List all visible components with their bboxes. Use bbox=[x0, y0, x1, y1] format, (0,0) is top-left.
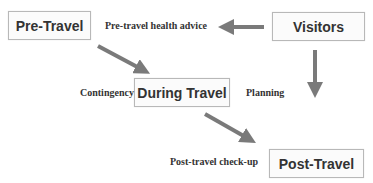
label-contingency: Contingency bbox=[80, 87, 134, 98]
node-post-travel: Post-Travel bbox=[269, 149, 364, 178]
node-during-travel: During Travel bbox=[134, 78, 230, 107]
node-visitors-label: Visitors bbox=[293, 19, 344, 35]
arrow-pre-to-during bbox=[98, 46, 143, 70]
node-pre-travel-label: Pre-Travel bbox=[16, 18, 84, 34]
node-pre-travel: Pre-Travel bbox=[8, 11, 91, 40]
node-post-travel-label: Post-Travel bbox=[279, 156, 354, 172]
node-during-travel-label: During Travel bbox=[137, 85, 226, 101]
label-post-travel-check-up: Post-travel check-up bbox=[170, 156, 258, 167]
node-visitors: Visitors bbox=[272, 12, 365, 41]
arrow-during-to-post bbox=[205, 114, 249, 139]
label-pre-travel-health-advice: Pre-travel health advice bbox=[105, 20, 207, 31]
label-planning: Planning bbox=[246, 87, 284, 98]
